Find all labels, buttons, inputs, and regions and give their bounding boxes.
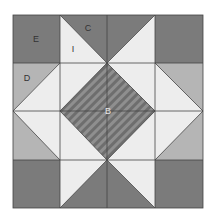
label-d: D (24, 73, 31, 83)
label-c: C (85, 23, 92, 33)
label-e: E (33, 34, 39, 44)
corner-square-top-right (155, 15, 203, 63)
corner-square-bottom-left (13, 160, 60, 208)
corner-square-bottom-right (155, 160, 203, 208)
quilt-block-diagram: E C I D B (0, 0, 213, 222)
label-i: I (72, 44, 75, 54)
label-b: B (105, 106, 111, 116)
